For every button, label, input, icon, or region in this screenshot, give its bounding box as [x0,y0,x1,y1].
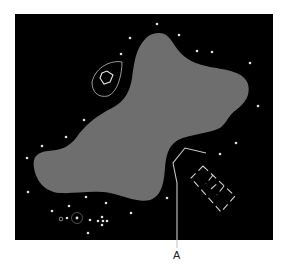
star-dot [219,153,222,156]
ringed-star [76,217,79,220]
star-dot [83,119,86,122]
star-dot [257,105,260,108]
star-dot [178,34,181,37]
star-dot [87,232,90,235]
star-dot [85,196,88,199]
star-dot [130,212,133,215]
star-dot [101,224,104,227]
star-dot [106,220,109,223]
star-dot [101,216,104,219]
star-dot [105,202,108,205]
star-dot [41,145,44,148]
star-dot [65,136,68,139]
star-dot [156,23,159,26]
star-dot [97,220,100,223]
star-dot [249,62,252,65]
star-dot [89,219,92,222]
star-dot [166,197,169,200]
star-dot [102,220,105,223]
star-dot [129,37,132,40]
diagram-figure: A [0,0,285,270]
star-dot [211,51,214,54]
star-dot [26,157,29,160]
star-dot [27,191,30,194]
star-dot [120,53,123,56]
star-dot [235,142,238,145]
pointer-label-a: A [173,249,180,261]
star-dot [196,50,199,53]
star-dot [66,217,69,220]
star-dot [68,205,71,208]
star-dot [51,210,54,213]
